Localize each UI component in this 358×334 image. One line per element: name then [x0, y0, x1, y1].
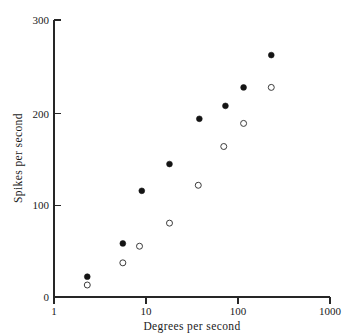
data-point-filled	[139, 188, 145, 194]
scatter-plot-figure: 300 200 100 0 1 10 100 1000 Degrees per …	[0, 0, 358, 334]
y-tick-label-100: 100	[33, 199, 50, 211]
data-point-filled	[196, 116, 202, 122]
x-tick-label-100: 100	[230, 305, 247, 317]
axes-group	[54, 20, 330, 297]
data-point-filled	[268, 52, 274, 58]
y-tick-label-0: 0	[44, 291, 50, 303]
data-point-filled	[167, 161, 173, 167]
x-tick-label-10: 10	[141, 305, 153, 317]
data-point-open	[120, 260, 126, 266]
data-point-filled	[84, 274, 90, 280]
x-axis-title: Degrees per second	[143, 320, 240, 333]
series-open	[84, 84, 274, 288]
y-tick-label-200: 200	[33, 108, 50, 120]
data-point-filled	[241, 85, 247, 91]
plot-canvas: 300 200 100 0 1 10 100 1000 Degrees per …	[0, 0, 358, 334]
data-point-open	[241, 120, 247, 126]
data-point-open	[166, 220, 172, 226]
y-tick-group: 300 200 100 0	[33, 14, 62, 303]
data-point-open	[268, 84, 274, 90]
series-filled	[84, 52, 274, 279]
data-point-open	[137, 243, 143, 249]
data-point-open	[84, 282, 90, 288]
x-tick-group: 1 10 100 1000	[51, 297, 341, 317]
data-point-filled	[120, 241, 126, 247]
data-point-open	[195, 182, 201, 188]
y-tick-label-300: 300	[33, 14, 50, 26]
data-point-filled	[223, 103, 229, 109]
x-tick-label-1: 1	[51, 305, 57, 317]
x-tick-label-1000: 1000	[319, 305, 342, 317]
data-point-open	[221, 144, 227, 150]
data-points-layer	[84, 52, 274, 288]
y-axis-title: Spikes per second	[12, 113, 25, 203]
